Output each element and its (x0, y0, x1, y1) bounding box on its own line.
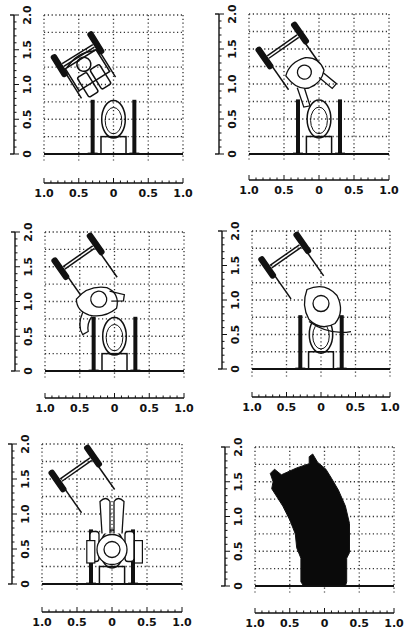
y-tick-label: 1.5 (232, 472, 245, 492)
y-tick-label: 1.5 (226, 39, 239, 59)
y-tick-label: 1.5 (22, 257, 35, 277)
x-axis: 1.00.500.51.0 (242, 392, 400, 414)
occupant (74, 283, 130, 335)
panel-2-plot: 00.51.01.52.01.00.500.51.0 (249, 14, 391, 210)
x-tick-label: 0 (111, 402, 119, 415)
x-tick-label: 1.0 (173, 187, 193, 200)
panel-2: 00.51.01.52.01.00.500.51.0 (249, 14, 408, 226)
x-tick-label: 1.0 (379, 184, 399, 197)
x-axis: 1.00.500.51.0 (32, 607, 192, 629)
x-tick-label: 1.0 (34, 187, 54, 200)
head (313, 296, 329, 312)
x-tick-label: 1.0 (35, 402, 55, 415)
y-tick-label: 1.5 (229, 256, 242, 276)
x-tick-label: 0 (321, 617, 329, 630)
x-tick-label: 0.5 (277, 401, 297, 414)
x-tick-label: 0 (315, 184, 323, 197)
x-tick-label: 0 (317, 401, 325, 414)
y-tick-label: 0 (19, 580, 32, 588)
swept-area (270, 454, 349, 586)
grab-bar (340, 315, 344, 369)
grid (44, 15, 183, 162)
x-tick-label: 1.0 (174, 402, 194, 415)
y-tick-label: 0.5 (22, 327, 35, 347)
grab-bar (133, 317, 137, 371)
y-tick-label: 0.5 (226, 109, 239, 129)
x-tick-label: 0.5 (69, 187, 89, 200)
grab-bar (298, 315, 302, 369)
x-axis: 1.00.500.51.0 (239, 175, 399, 197)
toilet-fixture (89, 317, 141, 372)
grab-bar (132, 100, 136, 154)
y-tick-label: 1.0 (229, 290, 242, 310)
y-tick-label: 0 (22, 367, 35, 375)
y-tick-label: 1.0 (232, 506, 245, 526)
x-tick-label: 0.5 (67, 616, 87, 629)
panel-3: 00.51.01.52.01.00.500.51.0 (45, 232, 249, 444)
toilet-fixture (293, 99, 345, 155)
y-tick-label: 0 (226, 150, 239, 158)
x-tick-label: 0.5 (139, 187, 159, 200)
x-tick-label: 0.5 (70, 402, 90, 415)
x-tick-label: 1.0 (32, 616, 52, 629)
y-tick-label: 2.0 (229, 221, 242, 241)
occupant (282, 50, 339, 109)
x-tick-label: 0.5 (346, 401, 366, 414)
y-axis: 00.51.01.52.0 (8, 434, 32, 588)
x-tick-label: 1.0 (384, 617, 404, 630)
x-tick-label: 0 (108, 616, 116, 629)
y-tick-label: 1.0 (19, 504, 32, 524)
y-tick-label: 0.5 (232, 542, 245, 562)
x-tick-label: 1.0 (242, 401, 262, 414)
y-tick-label: 0 (21, 150, 34, 158)
y-tick-label: 2.0 (226, 4, 239, 24)
wheel (48, 470, 66, 493)
toilet-fixture (88, 100, 140, 155)
panel-3-plot: 00.51.01.52.01.00.500.51.0 (45, 232, 186, 428)
panel-1: 00.51.01.52.01.00.500.51.0 (44, 15, 248, 227)
y-tick-label: 1.5 (21, 40, 34, 60)
panel-4: 00.51.01.52.01.00.500.51.0 (252, 231, 408, 443)
x-axis: 1.00.500.51.0 (35, 393, 194, 415)
x-tick-label: 1.0 (245, 617, 265, 630)
grab-bar (92, 317, 96, 371)
x-tick-label: 0.5 (274, 184, 294, 197)
y-tick-label: 0.5 (229, 325, 242, 345)
head (104, 542, 120, 558)
grab-bar (91, 100, 95, 154)
y-tick-label: 0.5 (21, 110, 34, 130)
y-tick-label: 0.5 (19, 539, 32, 559)
panel-4-plot: 00.51.01.52.01.00.500.51.0 (252, 231, 392, 427)
y-tick-label: 2.0 (22, 222, 35, 242)
y-tick-label: 2.0 (232, 437, 245, 457)
grab-bar (296, 99, 300, 154)
x-tick-label: 0.5 (280, 617, 300, 630)
y-tick-label: 2.0 (19, 434, 32, 454)
x-tick-label: 0 (110, 187, 118, 200)
y-tick-label: 1.0 (22, 291, 35, 311)
y-tick-label: 1.5 (19, 469, 32, 489)
x-tick-label: 0.5 (137, 616, 157, 629)
panel-5: 00.51.01.52.01.00.500.51.0 (42, 444, 246, 635)
wheelchair (51, 31, 121, 103)
x-tick-label: 1.0 (380, 401, 400, 414)
y-axis: 00.51.01.52.0 (10, 5, 34, 158)
x-tick-label: 0.5 (350, 617, 370, 630)
x-tick-label: 0.5 (140, 402, 160, 415)
panel-5-plot: 00.51.01.52.01.00.500.51.0 (42, 444, 184, 635)
x-tick-label: 0.5 (344, 184, 364, 197)
y-tick-label: 0 (229, 365, 242, 373)
panel-6-plot: 00.51.01.52.01.00.500.51.0 (255, 447, 396, 635)
y-tick-label: 2.0 (21, 5, 34, 25)
grid (249, 14, 389, 162)
x-tick-label: 1.0 (172, 616, 192, 629)
x-tick-label: 1.0 (239, 184, 259, 197)
grid (42, 444, 182, 592)
x-axis: 1.00.500.51.0 (34, 178, 193, 200)
y-axis: 00.51.01.52.0 (11, 222, 35, 375)
y-tick-label: 1.0 (21, 74, 34, 94)
panel-6: 00.51.01.52.01.00.500.51.0 (255, 447, 408, 635)
panel-1-plot: 00.51.01.52.01.00.500.51.0 (44, 15, 185, 213)
y-tick-label: 0 (232, 582, 245, 590)
x-axis: 1.00.500.51.0 (245, 608, 404, 630)
